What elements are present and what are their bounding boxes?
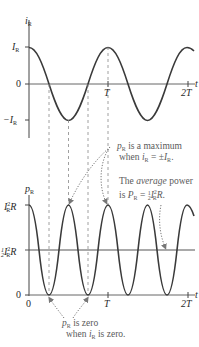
bottom-tick-zero: 0 (16, 289, 21, 300)
top-tick-zero: 0 (16, 78, 21, 89)
bottom-x-axis-label: t (195, 289, 198, 300)
top-tick-2T: 2T (181, 87, 192, 98)
annotation-average-line2: is PR = 12I2RR. (119, 187, 165, 204)
annotation-average-line1: The average power (119, 176, 193, 187)
annotation-zero-line2: when iR is zero. (66, 329, 125, 343)
annotation-maximum-line2: when iR = ±IR. (119, 152, 174, 166)
bottom-tick-max: I2RR (4, 199, 16, 216)
bottom-tick-2T: 2T (181, 298, 192, 309)
bottom-y-axis-label: pR (25, 183, 34, 198)
bottom-tick-T: T (104, 298, 110, 309)
top-y-axis-label: iR (25, 15, 32, 30)
top-tick-imax: IR (12, 41, 19, 56)
top-tick-T: T (104, 87, 110, 98)
top-tick-imin: −IR (3, 114, 17, 129)
bottom-tick-half: 12I2RR (1, 244, 16, 261)
diagram-canvas (0, 0, 199, 347)
bottom-tick-0: 0 (26, 298, 31, 309)
top-x-axis-label: t (195, 78, 198, 89)
